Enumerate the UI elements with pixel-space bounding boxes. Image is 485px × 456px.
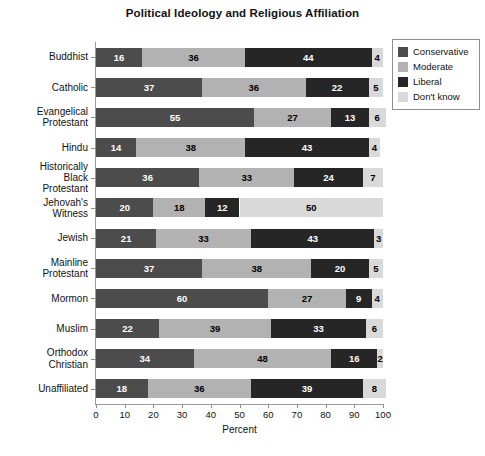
x-axis-tick-label: 40 bbox=[206, 409, 217, 420]
legend-item[interactable]: Liberal bbox=[398, 75, 475, 89]
bar-segment: 9 bbox=[346, 289, 372, 308]
y-axis-category-label: EvangelicalProtestant bbox=[0, 106, 88, 129]
x-axis-title: Percent bbox=[96, 424, 383, 435]
legend-swatch-icon bbox=[398, 47, 408, 57]
x-axis-tick-mark bbox=[268, 404, 269, 408]
x-axis-tick-label: 90 bbox=[349, 409, 360, 420]
bar-segment-value: 36 bbox=[142, 48, 245, 67]
y-axis-tick-mark bbox=[91, 329, 96, 330]
x-axis-tick-mark bbox=[182, 404, 183, 408]
bar-segment: 6 bbox=[369, 108, 386, 127]
bar-segment: 27 bbox=[254, 108, 331, 127]
bar-segment: 37 bbox=[96, 259, 202, 278]
y-axis-category-label-line: Jehovah's bbox=[0, 197, 88, 208]
y-axis-tick-mark bbox=[91, 268, 96, 269]
y-axis-category-label: Unaffiliated bbox=[0, 383, 88, 394]
bar-segment-value: 39 bbox=[159, 319, 271, 338]
y-axis-category-label: Muslim bbox=[0, 323, 88, 334]
bar-segment: 38 bbox=[136, 138, 245, 157]
y-axis-category-label-line: Protestant bbox=[0, 268, 88, 279]
plot-area: 1636444373622555271361438434363324720181… bbox=[96, 42, 383, 404]
y-axis-category-labels: BuddhistCatholicEvangelicalProtestantHin… bbox=[0, 42, 88, 404]
bar-segment-value: 18 bbox=[96, 379, 148, 398]
x-axis-tick-label: 10 bbox=[119, 409, 130, 420]
bar-segment: 39 bbox=[159, 319, 271, 338]
bar-segment-value: 37 bbox=[96, 78, 202, 97]
x-axis-tick-label: 80 bbox=[320, 409, 331, 420]
legend-item[interactable]: Moderate bbox=[398, 60, 475, 74]
bar-segment-value: 5 bbox=[369, 78, 383, 97]
bar-segment: 22 bbox=[96, 319, 159, 338]
bar-row: 5527136 bbox=[96, 108, 383, 127]
bar-segment-value: 3 bbox=[374, 229, 383, 248]
bar-segment: 20 bbox=[96, 198, 153, 217]
legend-item[interactable]: Don't know bbox=[398, 90, 475, 104]
bar-segment: 5 bbox=[369, 259, 383, 278]
y-axis-category-label-line: Catholic bbox=[0, 82, 88, 93]
x-axis-tick-mark bbox=[125, 404, 126, 408]
bar-segment-value: 16 bbox=[96, 48, 142, 67]
y-axis-category-label: Jehovah'sWitness bbox=[0, 197, 88, 220]
x-axis-tick-label: 60 bbox=[263, 409, 274, 420]
x-axis-tick-mark bbox=[240, 404, 241, 408]
bar-segment-value: 48 bbox=[194, 349, 332, 368]
bar-segment-value: 21 bbox=[96, 229, 156, 248]
bar-segment-value: 4 bbox=[372, 289, 383, 308]
y-axis-category-label-line: Buddhist bbox=[0, 51, 88, 62]
bar-segment-value: 55 bbox=[96, 108, 254, 127]
chart-title: Political Ideology and Religious Affilia… bbox=[0, 7, 485, 19]
legend-label: Moderate bbox=[413, 62, 453, 72]
bar-segment-value: 7 bbox=[363, 168, 383, 187]
bar-row: 2239336 bbox=[96, 319, 383, 338]
bar-row: 602794 bbox=[96, 289, 383, 308]
x-axis-ticks: 0102030405060708090100 bbox=[96, 404, 385, 424]
bar-segment-value: 16 bbox=[331, 349, 377, 368]
bar-segment: 27 bbox=[268, 289, 345, 308]
bar-segment: 50 bbox=[240, 198, 384, 217]
x-axis-tick-mark bbox=[354, 404, 355, 408]
bar-segment-value: 27 bbox=[254, 108, 331, 127]
legend-swatch-icon bbox=[398, 92, 408, 102]
bar-segment-value: 6 bbox=[369, 108, 386, 127]
bar-segment: 21 bbox=[96, 229, 156, 248]
bar-segment: 16 bbox=[96, 48, 142, 67]
bar-segment: 4 bbox=[369, 138, 380, 157]
bar-segment: 37 bbox=[96, 78, 202, 97]
bar-segment-value: 24 bbox=[294, 168, 363, 187]
y-axis-tick-mark bbox=[91, 178, 96, 179]
y-axis-category-label: HistoricallyBlackProtestant bbox=[0, 161, 88, 195]
bar-segment-value: 33 bbox=[156, 229, 251, 248]
bar-row: 1636444 bbox=[96, 48, 383, 67]
x-axis-tick-mark bbox=[211, 404, 212, 408]
bar-segment: 33 bbox=[199, 168, 294, 187]
x-axis-tick-label: 100 bbox=[375, 409, 391, 420]
legend-swatch-icon bbox=[398, 62, 408, 72]
y-axis-category-label: Jewish bbox=[0, 232, 88, 243]
bar-segment: 5 bbox=[369, 78, 383, 97]
bar-segment-value: 37 bbox=[96, 259, 202, 278]
x-axis-tick-label: 70 bbox=[292, 409, 303, 420]
bar-segment-value: 14 bbox=[96, 138, 136, 157]
bar-segment-value: 43 bbox=[245, 138, 368, 157]
y-axis-category-label: Hindu bbox=[0, 142, 88, 153]
y-axis-category-label: Mormon bbox=[0, 293, 88, 304]
bar-row: 3736225 bbox=[96, 78, 383, 97]
bar-row: 3448162 bbox=[96, 349, 383, 368]
y-axis-category-label-line: Unaffiliated bbox=[0, 383, 88, 394]
bar-row: 3738205 bbox=[96, 259, 383, 278]
bar-segment-value: 38 bbox=[202, 259, 311, 278]
bar-segment: 6 bbox=[366, 319, 383, 338]
bar-segment-value: 50 bbox=[240, 198, 384, 217]
bar-segment: 18 bbox=[153, 198, 205, 217]
bar-segment-value: 4 bbox=[372, 48, 383, 67]
x-axis-tick-label: 30 bbox=[177, 409, 188, 420]
bar-segment: 20 bbox=[311, 259, 368, 278]
y-axis-tick-mark bbox=[91, 298, 96, 299]
bar-segment-value: 43 bbox=[251, 229, 374, 248]
x-axis-tick-mark bbox=[153, 404, 154, 408]
chart-container: Political Ideology and Religious Affilia… bbox=[0, 0, 485, 456]
legend-item[interactable]: Conservative bbox=[398, 45, 475, 59]
bar-segment: 36 bbox=[148, 379, 251, 398]
bar-segment: 43 bbox=[251, 229, 374, 248]
y-axis-category-label-line: Evangelical bbox=[0, 106, 88, 117]
